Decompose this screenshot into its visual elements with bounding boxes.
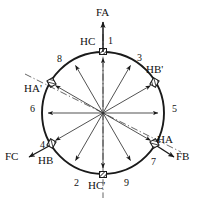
slot-number-2: 2 <box>74 178 79 188</box>
winding-label-HA-prime: HA' <box>24 83 42 94</box>
external-label-FA: FA <box>96 7 109 18</box>
winding-label-HB: HB <box>38 155 53 166</box>
winding-label-HC: HC <box>80 36 95 47</box>
coil-marker-square-bottom <box>100 172 107 178</box>
slot-number-4: 4 <box>40 140 45 150</box>
slot-number-1: 1 <box>108 36 113 46</box>
external-label-FC: FC <box>5 151 18 162</box>
slot-number-9: 9 <box>124 178 129 188</box>
slot-number-7: 7 <box>151 157 156 167</box>
slot-number-6: 6 <box>30 104 35 114</box>
slot-number-8: 8 <box>57 54 62 64</box>
slot-number-5: 5 <box>172 104 177 114</box>
slot-number-3: 3 <box>137 53 142 63</box>
external-label-FB: FB <box>176 151 189 162</box>
winding-label-HB-prime: HB' <box>146 64 163 75</box>
winding-label-HC-prime: HC' <box>88 180 105 191</box>
winding-label-HA: HA <box>157 134 173 145</box>
figure-canvas: 1 3 5 7 9 2 4 6 8 HC HB' HA' HA HB HC' F… <box>0 0 200 208</box>
radial-vectors <box>48 58 158 168</box>
